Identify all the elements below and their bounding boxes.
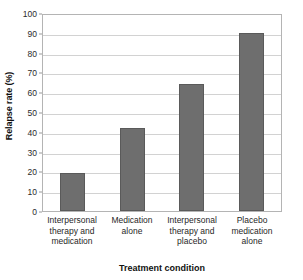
bar-slot: [162, 15, 222, 211]
x-axis-title: Treatment condition: [42, 263, 282, 273]
bar-series: [43, 15, 281, 211]
bar: [179, 84, 204, 211]
x-axis-tick-label-line: medication: [43, 236, 101, 247]
x-axis-tick-label-line: Medication: [103, 215, 161, 226]
x-axis-tick-label-line: therapy and: [163, 226, 221, 237]
y-axis-tick-label: 90: [28, 29, 37, 39]
x-axis-tick-label-line: alone: [223, 236, 281, 247]
bar-chart-figure: Relapse rate (%) 0102030405060708090100 …: [0, 0, 303, 280]
y-axis-tick-labels: 0102030405060708090100: [16, 14, 40, 212]
x-axis-tick-label-line: Interpersonal: [163, 215, 221, 226]
y-axis-tick-label: 10: [28, 187, 37, 197]
x-axis-tick-label-line: medication: [223, 226, 281, 237]
y-axis-tick-label: 60: [28, 88, 37, 98]
y-axis-tick-label: 50: [28, 108, 37, 118]
bar-slot: [43, 15, 103, 211]
y-axis-tick-label: 40: [28, 128, 37, 138]
bar: [60, 173, 85, 211]
x-axis-tick-labels: Interpersonaltherapy andmedicationMedica…: [42, 215, 282, 259]
y-axis-tick-label: 30: [28, 148, 37, 158]
bar: [120, 128, 145, 211]
x-axis-tick-label-line: Interpersonal: [43, 215, 101, 226]
x-axis-tick-label: Interpersonaltherapy andmedication: [42, 215, 102, 259]
y-axis-tick-label: 20: [28, 167, 37, 177]
bar: [239, 33, 264, 211]
plot-area: [42, 14, 282, 212]
x-axis-tick-label-line: placebo: [163, 236, 221, 247]
bar-slot: [222, 15, 282, 211]
y-axis-tick-label: 100: [23, 9, 37, 19]
y-axis-tick-label: 70: [28, 68, 37, 78]
y-axis-tick-label: 80: [28, 49, 37, 59]
x-axis-tick-label: Placebomedicationalone: [222, 215, 282, 259]
y-axis-tick-label: 0: [32, 207, 37, 217]
x-axis-tick-label-line: Placebo: [223, 215, 281, 226]
x-axis-tick-label: Medicationalone: [102, 215, 162, 259]
bar-slot: [103, 15, 163, 211]
x-axis-tick-label-line: therapy and: [43, 226, 101, 237]
y-axis-title-text: Relapse rate (%): [4, 72, 14, 140]
x-axis-tick-label: Interpersonaltherapy andplacebo: [162, 215, 222, 259]
x-axis-tick-label-line: alone: [103, 226, 161, 237]
